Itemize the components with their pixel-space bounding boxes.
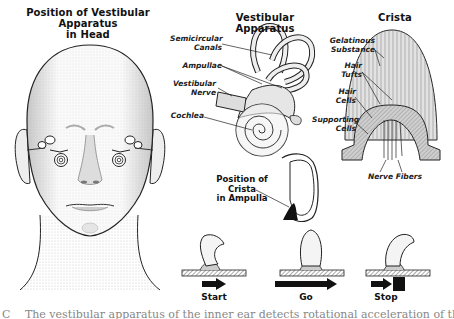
apparatus-panel-title: Vestibular Apparatus [210, 12, 320, 34]
label-cochlea: Cochlea [170, 112, 204, 121]
label-ampullae: Ampullae [175, 62, 222, 71]
head-illustration [15, 45, 165, 290]
arrow-stop [371, 277, 405, 291]
head-title-line1: Position of Vestibular Apparatus [8, 7, 168, 29]
label-position-of-crista: Position of Crista in Ampulla [214, 175, 270, 204]
label-nerve-fibers: Nerve Fibers [368, 173, 422, 182]
stage-label-start: Start [194, 292, 234, 302]
label-hair-cells: Hair Cells [330, 88, 356, 105]
stage-label-go: Go [286, 292, 326, 302]
label-line: in Ampulla [214, 194, 270, 204]
label-line: Tufts [336, 71, 362, 80]
label-gelatinous-substance: Gelatinous Substance [325, 37, 375, 54]
crista-go-illustration [280, 230, 344, 276]
label-line: Canals [170, 44, 222, 53]
label-semicircular-canals: Semicircular Canals [170, 35, 222, 52]
head-panel-title: Position of Vestibular Apparatus in Head [8, 7, 168, 40]
crista-panel-title: Crista [370, 12, 420, 23]
arrow-start [202, 278, 226, 290]
label-supporting-cells: Supporting Cells [312, 116, 356, 133]
label-line: Cells [330, 97, 356, 106]
crista-start-illustration [182, 235, 246, 276]
label-line: Nerve [170, 89, 216, 98]
figure-caption: C The vestibular apparatus of the inner … [0, 306, 454, 319]
label-line: Cells [312, 125, 356, 134]
label-hair-tufts: Hair Tufts [336, 62, 362, 79]
crista-stop-illustration [366, 234, 430, 276]
head-title-line2: in Head [8, 29, 168, 40]
label-line: Substance [325, 46, 375, 55]
stage-label-stop: Stop [366, 292, 406, 302]
label-vestibular-nerve: Vestibular Nerve [170, 80, 216, 97]
arrow-go [275, 278, 337, 290]
